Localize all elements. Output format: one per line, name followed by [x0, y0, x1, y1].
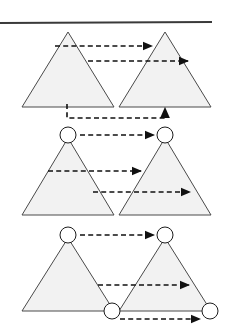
panel-bottom: [22, 227, 218, 319]
p1-right-triangle: [119, 32, 211, 107]
p3-left-base-node: [104, 303, 120, 319]
p3-right-apex-node: [157, 227, 173, 243]
p1-left-triangle: [22, 32, 114, 107]
p2-left-apex-node: [60, 127, 76, 143]
p2-left-triangle: [22, 138, 114, 215]
p3-left-apex-node: [60, 227, 76, 243]
p2-right-triangle: [119, 138, 211, 215]
p2-right-apex-node: [157, 127, 173, 143]
panel-top: [22, 32, 211, 118]
panel-middle: [22, 127, 211, 215]
p3-right-triangle: [119, 238, 211, 311]
triangle-mapping-diagram: [0, 0, 228, 332]
top-horizontal-rule: [0, 22, 212, 23]
p3-right-base-node: [202, 303, 218, 319]
p3-left-triangle: [22, 238, 114, 311]
